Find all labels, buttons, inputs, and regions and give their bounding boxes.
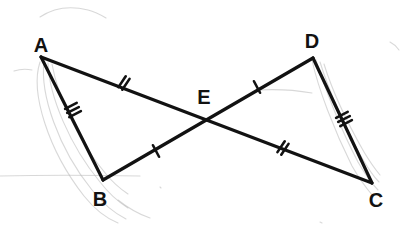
sketch-left-small [14, 69, 32, 71]
geometry-diagram-canvas: ABCDE [0, 0, 403, 229]
sketch-left-arc-4 [52, 64, 128, 194]
segment-BD [103, 58, 313, 180]
vertex-label-a: A [34, 35, 48, 55]
vertex-label-e: E [197, 87, 210, 107]
geometry-figure [0, 0, 403, 229]
sketch-dot-mid [160, 187, 161, 188]
sketch-right-arc-4 [312, 60, 373, 196]
vertex-label-d: D [305, 31, 319, 51]
vertex-label-c: C [369, 190, 383, 210]
sketch-right-tip [390, 42, 399, 50]
sketch-mid-line [258, 90, 312, 93]
sketch-right-arc-1 [316, 60, 378, 190]
sketch-dot-lower [320, 222, 322, 223]
vertex-label-b: B [93, 189, 107, 209]
sketch-bottom-curve [118, 200, 150, 218]
segment-layer [41, 57, 372, 183]
sketch-top-arc [40, 8, 106, 18]
